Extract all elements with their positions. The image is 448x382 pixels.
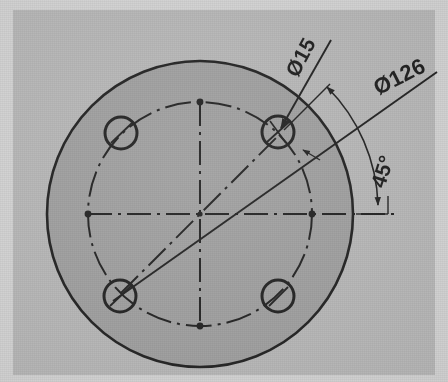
pitch-node-bottom <box>197 323 204 330</box>
pitch-node-top <box>197 99 204 106</box>
center-point <box>197 211 202 216</box>
technical-drawing-svg: Ø15 Ø126 45° <box>0 0 448 382</box>
drawing-canvas: Ø15 Ø126 45° <box>0 0 448 382</box>
pitch-node-right <box>309 211 316 218</box>
pitch-node-left <box>85 211 92 218</box>
